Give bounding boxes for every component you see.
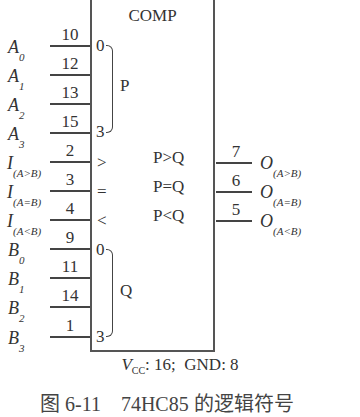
input-signal-label: B3 — [8, 328, 25, 351]
signal-name: A — [8, 95, 19, 115]
input-pin-number: 9 — [52, 228, 88, 248]
input-signal-label: B1 — [8, 269, 25, 292]
vcc-subscript: CC — [132, 365, 145, 376]
input-signal-label: A2 — [8, 95, 25, 118]
input-signal-label: A3 — [8, 124, 25, 147]
signal-subscript: 1 — [19, 283, 25, 295]
input-pin-line — [50, 277, 90, 279]
p-brace — [106, 45, 113, 133]
input-signal-label: A1 — [8, 66, 25, 89]
input-pin-number: 11 — [52, 257, 88, 277]
input-pin-line — [50, 74, 90, 76]
signal-subscript: (A>B) — [13, 167, 41, 179]
q-brace — [106, 249, 113, 337]
signal-name: O — [260, 211, 273, 231]
signal-name: B — [8, 269, 19, 289]
input-pin-number: 2 — [52, 141, 88, 161]
input-pin-number: 4 — [52, 199, 88, 219]
input-pin-number: 15 — [52, 112, 88, 132]
signal-subscript: 3 — [19, 138, 25, 150]
output-pin-number: 7 — [218, 142, 254, 162]
signal-name: B — [8, 328, 19, 348]
cascade-eq-label: = — [97, 182, 107, 202]
input-pin-number: 10 — [52, 25, 88, 45]
input-signal-label: B2 — [8, 298, 25, 321]
p-bit-start: 0 — [96, 36, 105, 56]
p-bit-end: 3 — [96, 122, 105, 142]
cascade-lt-label: < — [97, 211, 107, 231]
signal-subscript: 2 — [19, 312, 25, 324]
vcc-symbol: V — [121, 355, 131, 374]
output-pin-line — [216, 220, 252, 222]
input-pin-line — [50, 336, 90, 338]
signal-name: B — [8, 240, 19, 260]
block-title: COMP — [90, 6, 215, 26]
signal-subscript: 2 — [19, 109, 25, 121]
input-pin-line — [50, 248, 90, 250]
signal-name: O — [260, 153, 273, 173]
figure-caption: 图 6-11 74HC85 的逻辑符号 — [40, 388, 294, 417]
out-eq-label: P=Q — [153, 177, 184, 197]
q-bit-start: 0 — [96, 240, 105, 260]
signal-name: O — [260, 182, 273, 202]
signal-name: A — [8, 37, 19, 57]
output-signal-label: O(A>B) — [260, 153, 301, 176]
signal-subscript: 0 — [19, 254, 25, 266]
input-pin-line — [50, 219, 90, 221]
input-pin-line — [50, 161, 90, 163]
input-pin-line — [50, 306, 90, 308]
input-pin-number: 1 — [52, 316, 88, 336]
signal-name: A — [8, 66, 19, 86]
power-info: VCC: 16; GND: 8 — [0, 355, 360, 376]
input-signal-label: B0 — [8, 240, 25, 263]
out-lt-label: P<Q — [153, 206, 184, 226]
input-pin-number: 3 — [52, 170, 88, 190]
output-pin-number: 6 — [218, 171, 254, 191]
output-signal-label: O(A<B) — [260, 211, 301, 234]
signal-subscript: (A<B) — [13, 225, 41, 237]
input-pin-line — [50, 132, 90, 134]
input-signal-label: I(A<B) — [7, 211, 41, 234]
signal-subscript: 0 — [19, 51, 25, 63]
group-q-label: Q — [120, 281, 132, 301]
output-pin-line — [216, 191, 252, 193]
group-p-label: P — [120, 76, 129, 96]
signal-subscript: (A>B) — [273, 167, 301, 179]
input-signal-label: I(A>B) — [7, 153, 41, 176]
vcc-pin: : 16; — [145, 355, 176, 374]
input-pin-number: 13 — [52, 83, 88, 103]
signal-subscript: 3 — [19, 342, 25, 354]
input-pin-line — [50, 103, 90, 105]
out-gt-label: P>Q — [153, 148, 184, 168]
signal-subscript: (A=B) — [13, 196, 41, 208]
input-pin-line — [50, 190, 90, 192]
signal-subscript: (A=B) — [273, 196, 301, 208]
gnd-pin: GND: 8 — [184, 355, 238, 374]
input-pin-line — [50, 45, 90, 47]
q-bit-end: 3 — [96, 327, 105, 347]
signal-name: A — [8, 124, 19, 144]
output-pin-number: 5 — [218, 200, 254, 220]
signal-name: B — [8, 298, 19, 318]
input-signal-label: I(A=B) — [7, 182, 41, 205]
input-pin-number: 12 — [52, 54, 88, 74]
cascade-gt-label: > — [97, 153, 107, 173]
signal-subscript: (A<B) — [273, 225, 301, 237]
output-pin-line — [216, 162, 252, 164]
output-signal-label: O(A=B) — [260, 182, 301, 205]
input-pin-number: 14 — [52, 286, 88, 306]
signal-subscript: 1 — [19, 80, 25, 92]
input-signal-label: A0 — [8, 37, 25, 60]
